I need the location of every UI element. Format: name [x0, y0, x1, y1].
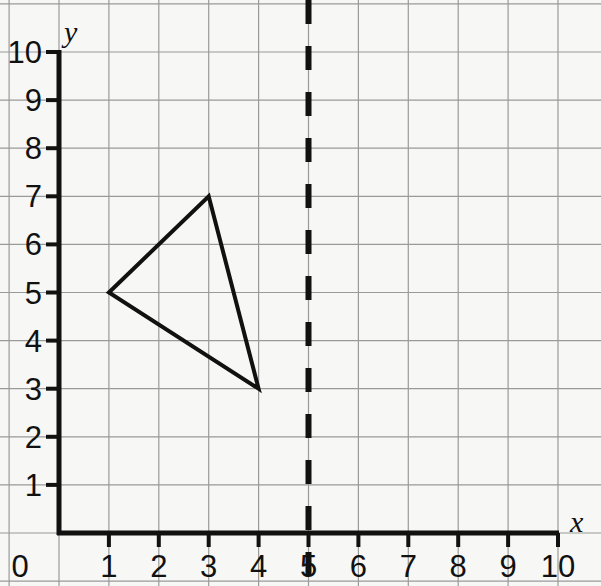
x-tick-label-6: 6 — [350, 551, 367, 582]
x-axis-label: x — [570, 507, 583, 537]
x-tick-label-0: 0 — [11, 551, 28, 582]
x-tick-label-5: 5 — [300, 551, 317, 582]
y-tick-label-10: 10 — [8, 37, 42, 68]
y-tick-label-8: 8 — [25, 133, 42, 164]
y-tick-label-6: 6 — [25, 229, 42, 260]
x-tick-label-4: 4 — [250, 551, 267, 582]
y-tick-label-5: 5 — [25, 277, 42, 308]
y-tick-label-1: 1 — [25, 469, 42, 500]
y-axis-label: y — [64, 17, 77, 47]
y-tick-label-7: 7 — [25, 181, 42, 212]
x-tick-label-7: 7 — [400, 551, 417, 582]
triangle — [109, 196, 259, 388]
y-tick-label-2: 2 — [25, 421, 42, 452]
x-tick-label-2: 2 — [150, 551, 167, 582]
shapes-group — [109, 196, 259, 388]
y-tick-label-4: 4 — [25, 325, 42, 356]
x-tick-label-9: 9 — [499, 551, 516, 582]
coordinate-grid-figure: 01234567891012345678910 x y — [0, 0, 601, 586]
x-tick-label-8: 8 — [450, 551, 467, 582]
x-tick-label-3: 3 — [200, 551, 217, 582]
plot-layer — [0, 0, 601, 586]
y-tick-label-3: 3 — [25, 373, 42, 404]
y-tick-label-9: 9 — [25, 85, 42, 116]
x-tick-label-10: 10 — [541, 551, 575, 582]
x-tick-label-1: 1 — [100, 551, 117, 582]
